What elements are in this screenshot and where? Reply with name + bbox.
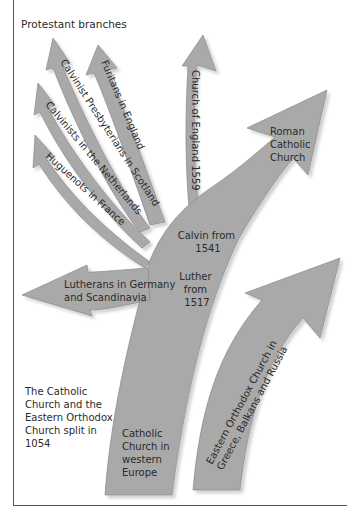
- label-church-of-england: Church of England 1559: [190, 70, 201, 191]
- split-note: The Catholic Church and the Eastern Orth…: [25, 385, 135, 450]
- note-line: Church split in: [25, 424, 135, 437]
- note-line: The Catholic: [25, 385, 135, 398]
- note-line: 1054: [25, 437, 135, 450]
- note-line: Eastern Orthodox: [25, 411, 135, 424]
- note-line: Church and the: [25, 398, 135, 411]
- diagram-title: Protestant branches: [21, 18, 127, 30]
- label-luther: Luther from 1517: [179, 271, 214, 308]
- arrow-lutherans: [22, 265, 150, 316]
